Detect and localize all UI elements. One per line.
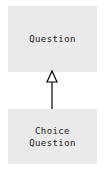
hollow-triangle-arrowhead-icon <box>47 71 57 82</box>
uml-class-question[interactable]: Question <box>8 6 97 72</box>
uml-class-diagram: Question Choice Question <box>0 0 104 171</box>
uml-class-question-name-line-1: Question <box>29 33 76 45</box>
uml-class-choice-question-name-line-1: Choice <box>35 125 70 137</box>
generalization-arrow[interactable] <box>44 69 60 111</box>
uml-class-choice-question[interactable]: Choice Question <box>8 109 97 164</box>
uml-class-choice-question-name-line-2: Question <box>29 137 76 149</box>
